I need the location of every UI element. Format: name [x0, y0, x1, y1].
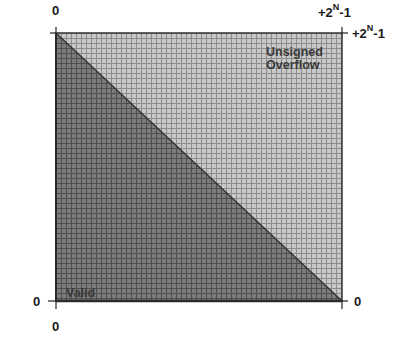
right-top-y-sup: N [367, 23, 374, 33]
top-right-x-base: +2 [318, 5, 333, 20]
unsigned-overflow-label: Unsigned Overflow [266, 46, 323, 72]
valid-label: Valid [66, 287, 95, 300]
bottom-left-x-label: 0 [52, 320, 59, 333]
top-right-x-sup: N [333, 2, 340, 12]
bottom-left-x-value: 0 [52, 319, 59, 334]
right-bottom-y-label: 0 [354, 295, 361, 308]
right-top-y-label: +2N-1 [352, 27, 385, 40]
top-right-x-suffix: -1 [339, 5, 351, 20]
right-top-y-base: +2 [352, 26, 367, 41]
valid-label-text: Valid [66, 286, 95, 300]
top-right-x-label: +2N-1 [318, 6, 351, 19]
overflow-label-line2: Overflow [266, 59, 323, 72]
left-bottom-y-label: 0 [33, 295, 40, 308]
diagram-graphic [0, 0, 400, 355]
right-top-y-suffix: -1 [373, 26, 385, 41]
top-left-x-label: 0 [52, 4, 59, 17]
overflow-diagram: 0 +2N-1 +2N-1 0 0 0 Unsigned Overflow Va… [0, 0, 400, 355]
right-bottom-y-value: 0 [354, 294, 361, 309]
left-bottom-y-value: 0 [33, 294, 40, 309]
top-left-x-value: 0 [52, 3, 59, 18]
